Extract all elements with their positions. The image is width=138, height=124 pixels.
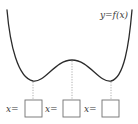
answer-box-left-minimum[interactable] bbox=[25, 100, 42, 117]
function-curve bbox=[7, 10, 132, 81]
x-equals-label-1: x= bbox=[6, 104, 19, 114]
x-equals-label-2: x= bbox=[45, 104, 58, 114]
answer-box-right-minimum[interactable] bbox=[102, 100, 119, 117]
x-equals-label-3: x= bbox=[84, 104, 97, 114]
answer-box-local-maximum[interactable] bbox=[63, 100, 80, 117]
function-graph: y=f(x) x= x= x= bbox=[0, 0, 138, 124]
curve-label: y=f(x) bbox=[99, 10, 129, 20]
